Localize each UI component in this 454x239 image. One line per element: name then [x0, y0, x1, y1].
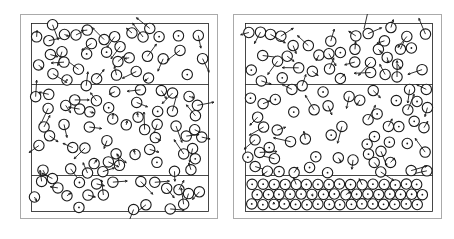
particle [417, 64, 427, 74]
particle-center-dot [156, 161, 158, 163]
particle-center-dot [278, 194, 280, 196]
panel-left-canvas [20, 14, 218, 219]
particle-center-dot [374, 136, 376, 138]
particle-center-dot [389, 193, 391, 195]
particle-center-dot [366, 143, 368, 145]
arrowhead [133, 23, 134, 25]
arrowhead [388, 60, 389, 62]
particle-center-dot [305, 184, 307, 186]
arrowhead [68, 193, 70, 194]
particle [258, 122, 268, 132]
particle [91, 96, 101, 106]
particle-center-dot [356, 193, 358, 195]
arrowhead [91, 93, 92, 95]
particle-center-dot [251, 183, 253, 185]
particle-center-dot [421, 194, 423, 196]
particle-center-dot [372, 183, 374, 185]
particle-center-dot [79, 182, 81, 184]
particle-center-dot [178, 35, 180, 37]
particle [326, 36, 336, 46]
particle-center-dot [273, 183, 275, 185]
particle [244, 27, 254, 37]
particle-center-dot [250, 97, 252, 99]
particle-center-dot [368, 153, 370, 155]
particle-center-dot [405, 203, 407, 205]
particle-center-dot [367, 193, 369, 195]
velocity-arrow [92, 28, 104, 40]
particle-center-dot [322, 91, 324, 93]
particle-center-dot [278, 171, 280, 173]
panel-left [20, 14, 218, 219]
particle [341, 190, 351, 200]
figure-root [0, 0, 454, 239]
particle [68, 142, 78, 152]
particle-center-dot [289, 193, 291, 195]
particle [297, 81, 307, 91]
particle-center-dot [405, 183, 407, 185]
particle [269, 154, 279, 164]
arrowhead [174, 195, 175, 197]
particle-center-dot [372, 203, 374, 205]
particle-center-dot [330, 134, 332, 136]
particle-center-dot [250, 69, 252, 71]
particle [309, 105, 319, 115]
particle [307, 189, 317, 199]
particle-center-dot [293, 111, 295, 113]
particle-center-dot [262, 183, 264, 185]
particle-center-dot [317, 184, 319, 186]
particle-center-dot [361, 203, 363, 205]
particle-center-dot [339, 183, 341, 185]
particle-center-dot [416, 184, 418, 186]
particle-center-dot [268, 147, 270, 149]
particle-center-dot [411, 47, 413, 49]
arrowhead [125, 59, 127, 60]
arrowhead [186, 105, 187, 107]
particle [131, 66, 141, 76]
particle-center-dot [327, 172, 329, 174]
particle [128, 204, 138, 214]
particle [192, 100, 202, 110]
particle-center-dot [400, 194, 402, 196]
particle-center-dot [351, 203, 353, 205]
particle [255, 27, 265, 37]
arrowhead [145, 80, 147, 81]
particle-center-dot [108, 107, 110, 109]
particle-center-dot [309, 167, 311, 169]
particle-center-dot [281, 77, 283, 79]
particle-center-dot [295, 204, 297, 206]
particle-center-dot [317, 203, 319, 205]
particle [386, 22, 396, 32]
particle-center-dot [306, 204, 308, 206]
particle-center-dot [333, 193, 335, 195]
particle-center-dot [323, 193, 325, 195]
arrowhead [167, 60, 169, 61]
particle-center-dot [300, 193, 302, 195]
particle-center-dot [157, 111, 159, 113]
arrowhead [201, 46, 202, 48]
particle-center-dot [416, 101, 418, 103]
panel-right-canvas [233, 14, 442, 219]
particle-center-dot [413, 120, 415, 122]
particle [291, 179, 301, 189]
arrowhead [262, 175, 264, 176]
particle-center-dot [394, 184, 396, 186]
particle [145, 23, 155, 33]
particle-center-dot [268, 194, 270, 196]
particle-center-dot [411, 193, 413, 195]
particle-center-dot [376, 113, 378, 115]
particle-layer [29, 18, 214, 219]
particle [138, 32, 148, 42]
particle [272, 125, 282, 135]
particle-center-dot [106, 51, 108, 53]
particle-center-dot [256, 194, 258, 196]
particle-center-dot [394, 203, 396, 205]
arrowhead [39, 170, 40, 172]
particle-center-dot [66, 79, 68, 81]
particle-center-dot [283, 203, 285, 205]
particle [404, 84, 414, 94]
particle [83, 190, 93, 200]
particle [181, 131, 191, 141]
particle [250, 161, 260, 171]
particle-center-dot [251, 203, 253, 205]
particle [269, 199, 279, 209]
